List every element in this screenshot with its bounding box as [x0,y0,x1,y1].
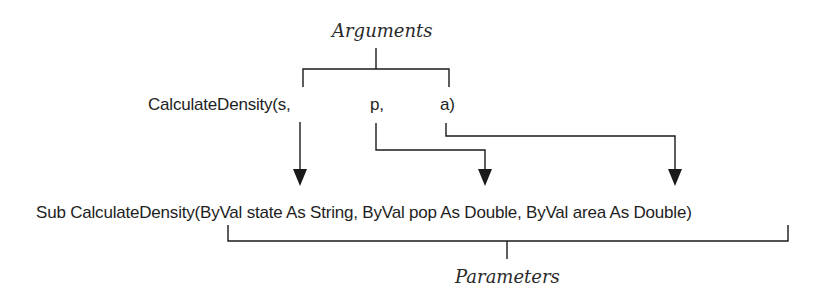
sub-declaration: Sub CalculateDensity(ByVal state As Stri… [36,203,692,223]
arrow-a-line [446,123,675,170]
arrowhead-a-icon [668,169,682,186]
connector-lines [0,0,826,306]
arguments-label: Arguments [332,20,433,41]
call-function-name: CalculateDensity(s, [148,95,291,115]
arrow-p-line [376,123,485,170]
arrowhead-p-icon [478,169,492,186]
arrowhead-s-icon [293,169,307,186]
parameters-bracket [228,225,788,241]
call-arg-a: a) [440,95,455,115]
parameters-label: Parameters [455,266,560,287]
arguments-bracket [303,69,449,87]
call-arg-p: p, [370,95,384,115]
